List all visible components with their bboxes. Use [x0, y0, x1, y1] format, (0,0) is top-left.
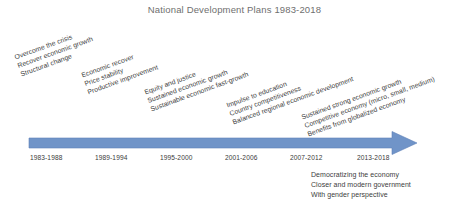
period-label-2001-2006: 2001-2006	[225, 154, 257, 161]
page-title: National Development Plans 1983-2018	[0, 4, 469, 15]
timeline-arrow	[28, 131, 418, 155]
period-label-1995-2000: 1995-2000	[160, 154, 192, 161]
period-label-1983-1988: 1983-1988	[30, 154, 62, 161]
note-line: Democratizing the economy	[311, 170, 411, 180]
period-label-1989-1994: 1989-1994	[95, 154, 127, 161]
period-label-2013-2018: 2013-2018	[357, 154, 389, 161]
note-block-2013-2018: Democratizing the economy Closer and mod…	[311, 170, 411, 201]
timeline-diagram: National Development Plans 1983-2018 198…	[0, 0, 469, 213]
period-label-2007-2012: 2007-2012	[290, 154, 322, 161]
note-line: With gender perspective	[311, 190, 411, 200]
arrow-shape	[28, 131, 418, 155]
note-line: Closer and modern government	[311, 180, 411, 190]
